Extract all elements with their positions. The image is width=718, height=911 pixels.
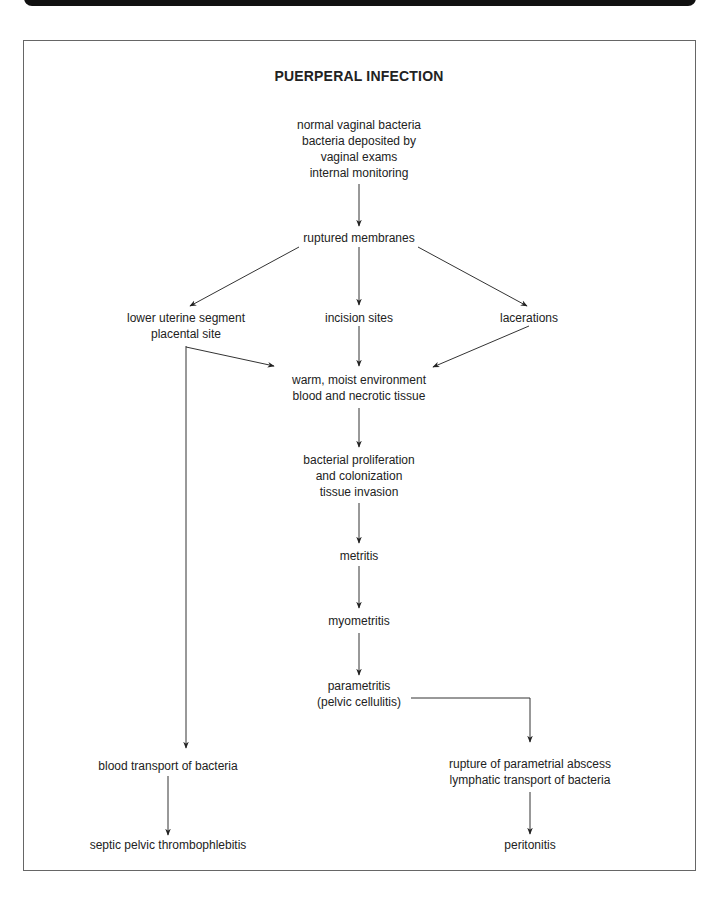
node-line: and colonization	[303, 468, 414, 484]
node-parametritis: parametritis (pelvic cellulitis)	[317, 678, 401, 710]
node-incision-sites: incision sites	[325, 310, 393, 326]
node-line: rupture of parametrial abscess	[449, 756, 611, 772]
arrow-lower-environment	[186, 346, 274, 366]
node-rupture-abscess: rupture of parametrial abscess lymphatic…	[449, 756, 611, 788]
node-line: blood and necrotic tissue	[292, 388, 426, 404]
node-environment: warm, moist environment blood and necrot…	[292, 372, 426, 404]
node-line: placental site	[127, 326, 245, 342]
node-bacteria-sources: normal vaginal bacteria bacteria deposit…	[297, 117, 421, 181]
node-line: bacterial proliferation	[303, 452, 414, 468]
node-metritis: metritis	[340, 548, 379, 564]
arrow-parametritis-abscess	[411, 698, 530, 742]
node-line: warm, moist environment	[292, 372, 426, 388]
node-peritonitis: peritonitis	[504, 837, 555, 853]
node-lacerations: lacerations	[500, 310, 558, 326]
arrow-ruptured-lower	[190, 247, 299, 306]
node-bacterial-proliferation: bacterial proliferation and colonization…	[303, 452, 414, 500]
node-line: internal monitoring	[297, 165, 421, 181]
node-myometritis: myometritis	[328, 613, 389, 629]
node-line: parametritis	[317, 678, 401, 694]
node-line: tissue invasion	[303, 484, 414, 500]
node-line: vaginal exams	[297, 149, 421, 165]
node-blood-transport: blood transport of bacteria	[98, 758, 237, 774]
node-line: bacteria deposited by	[297, 133, 421, 149]
node-lower-uterine-segment: lower uterine segment placental site	[127, 310, 245, 342]
node-line: lymphatic transport of bacteria	[449, 772, 611, 788]
node-ruptured-membranes: ruptured membranes	[303, 230, 414, 246]
node-line: (pelvic cellulitis)	[317, 694, 401, 710]
arrow-ruptured-lacerations	[418, 247, 527, 306]
node-septic-thrombophlebitis: septic pelvic thrombophlebitis	[90, 837, 247, 853]
node-line: normal vaginal bacteria	[297, 117, 421, 133]
node-line: lower uterine segment	[127, 310, 245, 326]
arrow-lacerations-environment	[433, 326, 529, 367]
